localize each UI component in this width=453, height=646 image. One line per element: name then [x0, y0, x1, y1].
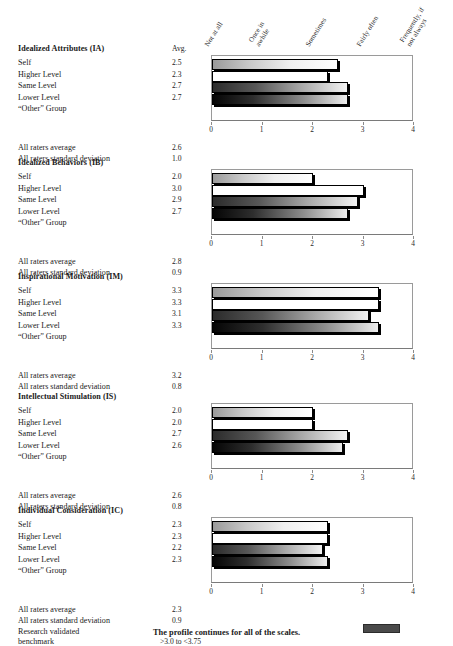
rater-row-label: Higher Level: [18, 184, 61, 193]
rater-row-label: Same Level: [18, 429, 57, 438]
rater-row-label: Lower Level: [18, 555, 60, 564]
x-axis: 01234: [211, 122, 413, 136]
all-raters-std-dev-label: All raters standard deviation: [18, 382, 110, 391]
axis-tick-label: 3: [361, 125, 365, 134]
rater-row-label: Same Level: [18, 81, 57, 90]
all-raters-average-value: 2.6: [172, 143, 182, 152]
rater-row-label: Higher Level: [18, 70, 61, 79]
chart-plot-area: [211, 517, 413, 583]
rater-average-value: 3.3: [172, 286, 182, 295]
rater-average-value: 2.7: [172, 207, 182, 216]
all-raters-average-label: All raters average: [18, 257, 76, 266]
x-axis: 01234: [211, 350, 413, 364]
rater-average-value: 2.3: [172, 520, 182, 529]
rater-average-value: 2.7: [172, 81, 182, 90]
chart-bar: [212, 173, 313, 184]
rater-average-value: 2.6: [172, 441, 182, 450]
chart-bar: [212, 407, 313, 418]
chart-bar: [212, 94, 348, 105]
benchmark-range-text: >3.0 to <3.75: [160, 637, 201, 646]
chart-bar: [212, 287, 379, 298]
axis-tick-label: 2: [310, 587, 314, 596]
x-axis: 01234: [211, 470, 413, 484]
all-raters-average-label: All raters average: [18, 371, 76, 380]
rater-row-label: Self: [18, 406, 31, 415]
axis-tick-label: 2: [310, 353, 314, 362]
chart-bar: [212, 544, 323, 555]
chart-bar: [212, 419, 313, 430]
rater-average-value: 3.0: [172, 184, 182, 193]
rater-row-label: Higher Level: [18, 418, 61, 427]
rater-average-value: 2.5: [172, 58, 182, 67]
rater-average-value: 2.7: [172, 429, 182, 438]
rater-average-value: 2.3: [172, 532, 182, 541]
rater-row-label: Self: [18, 58, 31, 67]
rater-row-label: “Other” Group: [18, 452, 67, 461]
section-title: Intellectual Stimulation (IS): [18, 392, 116, 401]
axis-tick-label: 1: [260, 353, 264, 362]
chart-bar: [212, 208, 348, 219]
axis-tick-label: 4: [411, 125, 415, 134]
chart-bar: [212, 556, 328, 567]
rater-row-label: Lower Level: [18, 441, 60, 450]
scale-header-label-0: Not at all: [203, 20, 224, 48]
axis-tick-label: 0: [209, 125, 213, 134]
chart-bar: [212, 322, 379, 333]
all-raters-average-value: 2.8: [172, 257, 182, 266]
avg-column-header: Avg.: [172, 44, 186, 53]
rater-average-value: 2.3: [172, 555, 182, 564]
axis-tick-label: 0: [209, 587, 213, 596]
axis-tick-label: 0: [209, 353, 213, 362]
scale-header-label-4: Frequently, if not always: [398, 6, 433, 48]
chart-bar: [212, 442, 343, 453]
all-raters-std-dev-value: 0.8: [172, 502, 182, 511]
rater-average-value: 3.1: [172, 309, 182, 318]
rater-average-value: 2.7: [172, 93, 182, 102]
rater-row-label: “Other” Group: [18, 218, 67, 227]
rater-row-label: Lower Level: [18, 321, 60, 330]
scale-header-label-3: Fairly often: [355, 14, 380, 48]
all-raters-average-label: All raters average: [18, 143, 76, 152]
all-raters-average-value: 3.2: [172, 371, 182, 380]
rater-row-label: Self: [18, 172, 31, 181]
scale-header-label-2: Sometimes: [304, 16, 328, 48]
rater-row-label: Same Level: [18, 195, 57, 204]
section-title: Individual Consideration (IC): [18, 506, 123, 515]
chart-bar: [212, 185, 364, 196]
rater-row-label: Lower Level: [18, 93, 60, 102]
all-raters-average-label: All raters average: [18, 605, 76, 614]
rater-row-label: “Other” Group: [18, 104, 67, 113]
section-title: Idealized Behaviors (IB): [18, 158, 103, 167]
rater-average-value: 2.0: [172, 172, 182, 181]
all-raters-average-value: 2.3: [172, 605, 182, 614]
all-raters-average-value: 2.6: [172, 491, 182, 500]
all-raters-std-dev-label: All raters standard deviation: [18, 616, 110, 625]
chart-plot-area: [211, 55, 413, 121]
chart-plot-area: [211, 169, 413, 235]
rater-average-value: 2.0: [172, 418, 182, 427]
chart-bar: [212, 310, 369, 321]
chart-plot-area: [211, 403, 413, 469]
rater-row-label: Higher Level: [18, 532, 61, 541]
rater-row-label: Self: [18, 520, 31, 529]
axis-tick-label: 3: [361, 473, 365, 482]
x-axis: 01234: [211, 584, 413, 598]
chart-plot-area: [211, 283, 413, 349]
axis-tick-label: 4: [411, 353, 415, 362]
axis-tick-label: 1: [260, 239, 264, 248]
rater-row-label: Same Level: [18, 543, 57, 552]
axis-tick-label: 3: [361, 587, 365, 596]
rater-average-value: 2.0: [172, 406, 182, 415]
chart-bar: [212, 430, 348, 441]
axis-tick-label: 1: [260, 125, 264, 134]
scale-header-label-1: Once in awhile: [247, 20, 273, 48]
all-raters-std-dev-value: 1.0: [172, 154, 182, 163]
rater-row-label: Same Level: [18, 309, 57, 318]
all-raters-std-dev-value: 0.8: [172, 382, 182, 391]
axis-tick-label: 1: [260, 473, 264, 482]
axis-tick-label: 4: [411, 473, 415, 482]
chart-bar: [212, 299, 379, 310]
section-title: Idealized Attributes (IA): [18, 44, 104, 53]
rater-row-label: Self: [18, 286, 31, 295]
rater-average-value: 3.3: [172, 298, 182, 307]
